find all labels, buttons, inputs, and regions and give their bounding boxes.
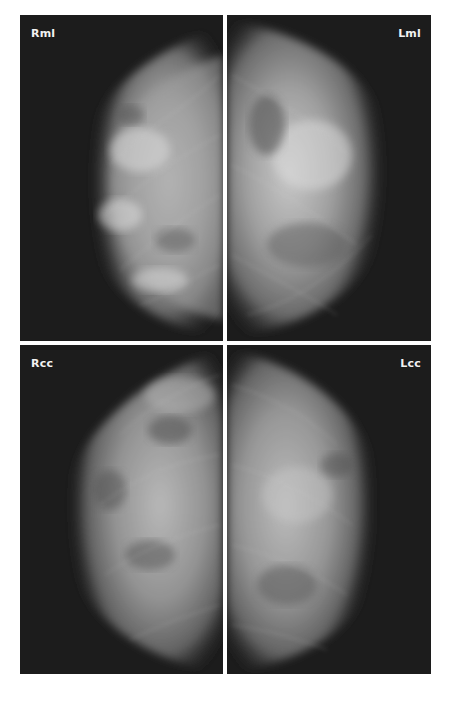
- view-label-rml: Rml: [31, 27, 55, 40]
- lml-image: [227, 15, 431, 341]
- panel-rcc: Rcc: [20, 345, 223, 674]
- rml-image: [20, 15, 223, 341]
- rcc-image: [20, 345, 223, 674]
- view-label-lcc: Lcc: [400, 357, 421, 370]
- view-label-rcc: Rcc: [31, 357, 53, 370]
- panel-lcc: Lcc: [227, 345, 431, 674]
- panel-lml: Lml: [227, 15, 431, 341]
- panel-rml: Rml: [20, 15, 223, 341]
- lcc-image: [227, 345, 431, 674]
- view-label-lml: Lml: [398, 27, 421, 40]
- mammogram-figure: Rml Lml: [20, 15, 431, 674]
